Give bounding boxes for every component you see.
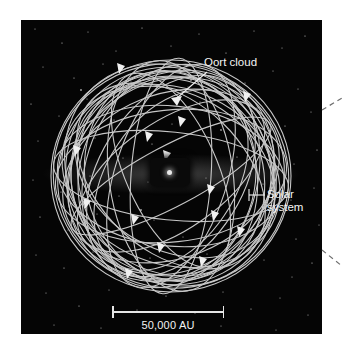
callout-line-bottom <box>322 250 342 266</box>
oort-cloud-figure: Oort cloud Solar system 50,000 AU <box>0 0 342 350</box>
callout-line-top <box>322 98 342 110</box>
callout-lines <box>0 0 342 350</box>
